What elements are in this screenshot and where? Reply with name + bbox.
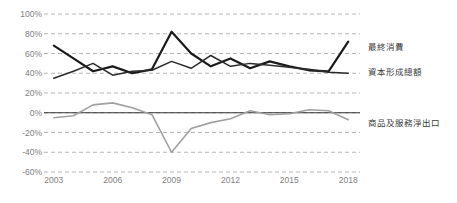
y-tick-label: -40% xyxy=(4,148,42,157)
y-axis: 100%80%60%40%20%0%-20%-40%-60% xyxy=(0,0,42,203)
y-tick-label: 20% xyxy=(4,89,42,98)
x-tick-label: 2015 xyxy=(280,176,299,185)
gridlines xyxy=(44,14,360,172)
y-tick-label: 0% xyxy=(4,109,42,118)
x-tick-label: 2018 xyxy=(339,176,358,185)
y-tick-label: -60% xyxy=(4,168,42,177)
series-label-3: 商品及服務淨出口 xyxy=(368,119,440,128)
series-line-3 xyxy=(54,103,348,152)
y-tick-label: 100% xyxy=(4,10,42,19)
series-lines xyxy=(54,32,348,152)
chart-container: 100%80%60%40%20%0%-20%-40%-60% 200320062… xyxy=(0,0,457,203)
chart-svg xyxy=(44,0,362,203)
plot-area xyxy=(44,0,362,203)
y-tick-label: 80% xyxy=(4,30,42,39)
y-tick-label: 60% xyxy=(4,49,42,58)
y-tick-label: 40% xyxy=(4,69,42,78)
x-tick-label: 2012 xyxy=(221,176,240,185)
series-label-1: 最終消費 xyxy=(368,43,404,52)
y-tick-label: -20% xyxy=(4,128,42,137)
x-tick-label: 2003 xyxy=(44,176,63,185)
series-label-2: 資本形成總額 xyxy=(368,68,422,77)
x-tick-label: 2006 xyxy=(103,176,122,185)
x-tick-label: 2009 xyxy=(162,176,181,185)
